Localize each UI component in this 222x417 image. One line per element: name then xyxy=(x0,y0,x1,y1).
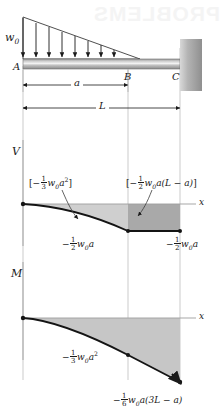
moment-axis-label: M xyxy=(11,268,22,279)
moment-node-a xyxy=(21,316,25,320)
moment-value-at-c: −16w0a(3L − a) xyxy=(113,392,182,407)
shear-area-right xyxy=(128,204,180,231)
shear-annotation-left: [−13w0a2] xyxy=(29,175,72,190)
shear-x-label: x xyxy=(199,198,204,207)
beam-body xyxy=(23,59,180,69)
shear-node-c xyxy=(178,229,182,233)
shear-diagram xyxy=(21,140,196,246)
moment-node-b xyxy=(126,353,130,357)
shear-value-at-b: −12w0a xyxy=(62,236,94,251)
shear-value-at-c: −12w0a xyxy=(166,236,198,251)
load-label-w0: w0 xyxy=(5,32,19,46)
dimension-label-a: a xyxy=(71,78,83,88)
dimension-label-L: L xyxy=(96,101,109,111)
moment-area xyxy=(23,318,180,382)
figure-canvas xyxy=(0,0,222,417)
beam-point-b: B xyxy=(124,72,131,82)
shear-annotation-right: [−12w0a(L − a)] xyxy=(126,175,197,190)
distributed-load xyxy=(23,17,140,59)
beam-point-c: C xyxy=(172,72,180,82)
shear-node-a xyxy=(21,202,25,206)
moment-x-label: x xyxy=(199,312,204,321)
beam-point-a: A xyxy=(13,62,20,72)
moment-value-at-b: −13w0a2 xyxy=(62,349,98,364)
shear-axis-label: V xyxy=(12,146,20,157)
moment-diagram xyxy=(21,262,196,384)
fixed-wall-support xyxy=(180,39,202,91)
shear-area-left xyxy=(23,204,128,231)
beam-shear-moment-figure: PROBLEMS xyxy=(0,0,222,417)
shear-node-b xyxy=(126,229,130,233)
